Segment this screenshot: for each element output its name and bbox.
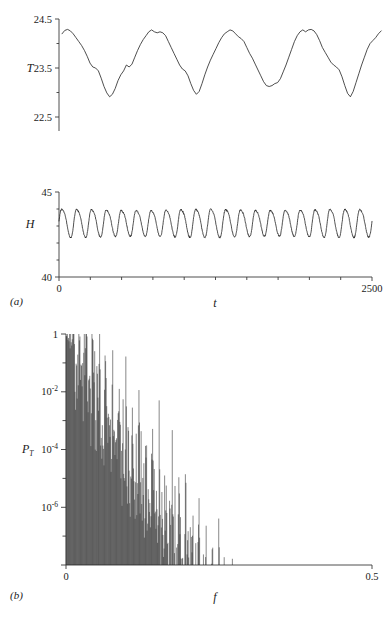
- panel-b-xaxis-title: f: [213, 590, 218, 604]
- spectrum-xtick-label-0: 0: [63, 571, 68, 582]
- panel-b-label: (b): [10, 589, 23, 602]
- h-xtick-label-2500: 2500: [362, 283, 383, 294]
- figure-container: 24.5 23.5 22.5 T: [0, 0, 389, 623]
- h-axis-title: H: [25, 217, 36, 231]
- h-xtick-label-0: 0: [56, 283, 61, 294]
- spectrum-ytick-label-1e-6: 10-6: [41, 500, 58, 513]
- spectrum-ytick-label-1e-4: 10-4: [41, 442, 58, 455]
- panel-a-label: (a): [10, 295, 23, 308]
- spectrum-spikes: [66, 334, 371, 565]
- h-ytick-label-45: 45: [42, 187, 53, 198]
- panel-a-xaxis-title: t: [213, 296, 217, 310]
- h-axis-x-ticks: [59, 277, 372, 281]
- spectrum-xtick-label-0-5: 0.5: [365, 571, 378, 582]
- t-ytick-label-22-5: 22.5: [34, 112, 52, 123]
- panel-a-temperature-plot: 24.5 23.5 22.5 T: [27, 14, 382, 132]
- spectrum-axis-x-ticks: [66, 565, 372, 569]
- panel-a-humidity-plot: 45 40 0 2500 H t: [25, 187, 383, 311]
- t-ytick-label-23-5: 23.5: [34, 63, 52, 74]
- figure-svg: 24.5 23.5 22.5 T: [0, 0, 389, 623]
- t-ytick-label-24-5: 24.5: [34, 14, 52, 25]
- panel-b-spectrum-plot: 1 10-2 10-4 10-6 0 0.5 PT f: [21, 329, 379, 605]
- temperature-trace: [62, 29, 381, 96]
- spectrum-ytick-label-1: 1: [53, 329, 58, 340]
- t-axis-y-ticks: [55, 19, 59, 117]
- spectrum-ytick-label-1e-2: 10-2: [41, 384, 58, 397]
- h-ytick-label-40: 40: [42, 272, 53, 283]
- h-axis-y-ticks: [55, 192, 59, 277]
- spectrum-axis-y-ticks: [61, 334, 66, 565]
- humidity-trace: [59, 209, 372, 239]
- spectrum-axis-title: PT: [21, 442, 34, 458]
